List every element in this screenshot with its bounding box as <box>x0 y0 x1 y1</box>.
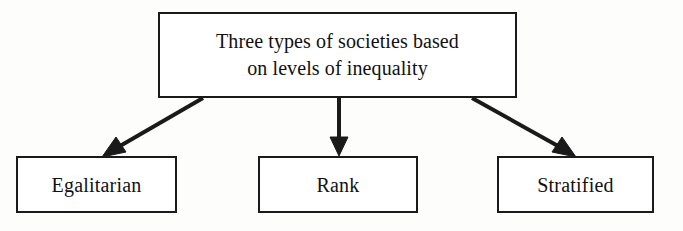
diagram-canvas: Three types of societies based on levels… <box>0 0 683 231</box>
connector-left-to-egalitarian <box>102 98 203 157</box>
connector-middle-to-rank <box>330 98 348 156</box>
node-stratified: Stratified <box>497 156 654 213</box>
node-egalitarian-label: Egalitarian <box>52 174 142 196</box>
node-stratified-label: Stratified <box>537 174 613 196</box>
connector-right-to-stratified <box>472 98 576 157</box>
node-root-label: Three types of societies based on levels… <box>210 28 465 81</box>
node-root-societies: Three types of societies based on levels… <box>158 12 517 98</box>
node-rank: Rank <box>258 156 418 213</box>
node-rank-label: Rank <box>316 174 359 196</box>
node-egalitarian: Egalitarian <box>16 156 177 213</box>
